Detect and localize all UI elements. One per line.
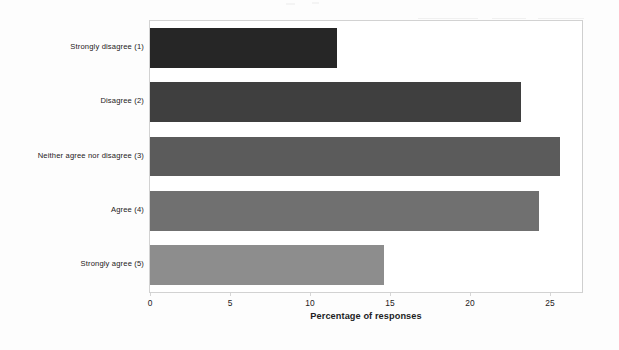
x-tick-mark-2 [310, 293, 311, 296]
y-axis-label-5: Strongly agree (5) [0, 259, 144, 268]
x-tick-mark-3 [390, 293, 391, 296]
x-axis-title: Percentage of responses [149, 311, 583, 321]
x-tick-mark-4 [470, 293, 471, 296]
x-tick-label-5: 25 [545, 298, 554, 308]
scan-artifact [418, 18, 478, 19]
x-tick-mark-5 [550, 293, 551, 296]
bar-1 [150, 28, 337, 68]
x-tick-label-4: 20 [465, 298, 474, 308]
bar-3 [150, 137, 560, 177]
x-tick-label-1: 5 [228, 298, 233, 308]
x-tick-mark-0 [150, 293, 151, 296]
bar-row [150, 191, 582, 231]
x-tick-label-2: 10 [305, 298, 314, 308]
x-axis-ticks: 0510152025 [149, 293, 583, 311]
y-axis-labels: Strongly disagree (1)Disagree (2)Neither… [0, 20, 144, 293]
bar-row [150, 245, 582, 285]
bar-2 [150, 82, 521, 122]
scan-artifact [312, 2, 319, 4]
scan-artifact [538, 18, 584, 19]
bar-row [150, 28, 582, 68]
x-tick-label-0: 0 [148, 298, 153, 308]
chart-page: Strongly disagree (1)Disagree (2)Neither… [0, 0, 619, 350]
y-axis-label-1: Strongly disagree (1) [0, 42, 144, 51]
x-tick-mark-1 [230, 293, 231, 296]
y-axis-label-3: Neither agree nor disagree (3) [0, 151, 144, 160]
y-axis-label-2: Disagree (2) [0, 96, 144, 105]
bar-5 [150, 245, 384, 285]
scan-artifact [286, 3, 295, 5]
plot-area [149, 20, 583, 293]
scan-artifact [492, 18, 526, 19]
bars-layer [150, 21, 582, 292]
x-tick-label-3: 15 [385, 298, 394, 308]
bar-row [150, 82, 582, 122]
bar-4 [150, 191, 539, 231]
y-axis-label-4: Agree (4) [0, 205, 144, 214]
bar-row [150, 137, 582, 177]
